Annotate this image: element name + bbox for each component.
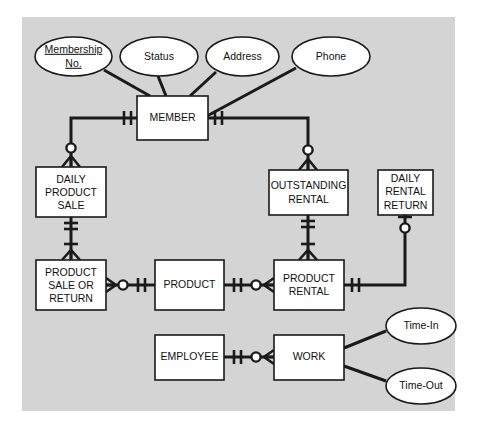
entity-daily-rental-return-line-1: DAILY (391, 172, 421, 184)
entity-work-label: WORK (293, 350, 326, 362)
entity-product-sale-or-return[interactable]: PRODUCT SALE OR RETURN (36, 260, 106, 310)
er-diagram-page: Membership No. Status Address Phone Time… (0, 0, 478, 426)
entity-product-label: PRODUCT (164, 278, 217, 290)
attribute-membership-no[interactable]: Membership No. (35, 37, 112, 76)
attribute-membership-no-line-2: No. (65, 57, 81, 69)
entity-daily-product-sale[interactable]: DAILY PRODUCT SALE (36, 167, 106, 217)
entity-product[interactable]: PRODUCT (155, 260, 224, 310)
entity-work[interactable]: WORK (274, 335, 344, 380)
leader-address (190, 72, 216, 96)
entity-outstanding-rental-line-2: RENTAL (288, 193, 329, 205)
leader-time-in (344, 331, 386, 348)
entity-daily-product-sale-line-2: PRODUCT (45, 186, 98, 198)
entity-product-sale-or-return-line-2: SALE OR (48, 279, 94, 291)
card-zero-or-many-work-left (251, 350, 274, 364)
leader-status (158, 76, 166, 96)
entity-daily-rental-return-line-3: RETURN (384, 199, 428, 211)
card-zero-or-many-outstanding-rental-top (299, 145, 317, 170)
entity-daily-product-sale-line-1: DAILY (56, 173, 86, 185)
entity-employee-label: EMPLOYEE (161, 350, 219, 362)
leader-time-out (344, 366, 386, 381)
attribute-shapes: Membership No. Status Address Phone Time… (35, 37, 456, 404)
attribute-phone-label: Phone (316, 50, 347, 62)
card-zero-or-many-product-rental-left (251, 278, 274, 292)
attribute-time-in-label: Time-In (403, 319, 438, 331)
attribute-time-out-label: Time-Out (399, 379, 442, 391)
entity-product-sale-or-return-line-1: PRODUCT (45, 266, 98, 278)
entity-daily-product-sale-line-3: SALE (58, 199, 85, 211)
card-zero-or-many-daily-product-sale-top (62, 143, 80, 167)
attribute-time-out[interactable]: Time-Out (386, 368, 456, 404)
card-zero-or-many-product-sale-or-return-right (106, 278, 128, 292)
cardinality-marks (62, 111, 412, 364)
entity-employee[interactable]: EMPLOYEE (155, 335, 224, 380)
entity-outstanding-rental-line-1: OUTSTANDING (271, 179, 347, 191)
attribute-status-label: Status (144, 50, 174, 62)
entity-member[interactable]: MEMBER (137, 96, 208, 140)
entity-daily-rental-return-line-2: RENTAL (385, 185, 426, 197)
connector-lines (71, 68, 405, 381)
link-product-rental-daily-rental-return (344, 215, 405, 285)
attribute-membership-no-line-1: Membership (45, 43, 103, 55)
attribute-address-label: Address (223, 50, 262, 62)
entity-member-label: MEMBER (149, 111, 196, 123)
entity-product-sale-or-return-line-3: RETURN (49, 292, 93, 304)
entity-product-rental[interactable]: PRODUCT RENTAL (274, 260, 344, 310)
attribute-time-in[interactable]: Time-In (386, 308, 456, 344)
attribute-status[interactable]: Status (120, 37, 198, 76)
attribute-phone[interactable]: Phone (292, 37, 370, 76)
entity-outstanding-rental[interactable]: OUTSTANDING RENTAL (269, 170, 348, 215)
er-diagram-svg: Membership No. Status Address Phone Time… (0, 0, 478, 426)
entity-product-rental-line-2: RENTAL (289, 285, 330, 297)
link-member-daily-product-sale (71, 118, 137, 167)
link-member-outstanding-rental (208, 118, 308, 170)
entity-daily-rental-return[interactable]: DAILY RENTAL RETURN (378, 170, 433, 215)
attribute-address[interactable]: Address (206, 37, 279, 76)
entity-product-rental-line-1: PRODUCT (283, 272, 336, 284)
